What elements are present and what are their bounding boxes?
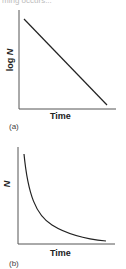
exponential-decay-curve <box>24 154 106 241</box>
y-axis-label-b: N <box>2 179 12 189</box>
chart-panel-a: log N Time (a) <box>0 0 126 135</box>
panel-tag-a: (a) <box>9 122 19 131</box>
panel-tag-b: (b) <box>9 259 19 268</box>
chart-panel-b: N Time (b) <box>0 135 126 269</box>
log-decay-line <box>24 19 107 105</box>
x-axis-label-a: Time <box>50 111 71 121</box>
y-axis-label-a: log N <box>5 46 15 74</box>
x-axis-label-b: Time <box>50 248 71 258</box>
